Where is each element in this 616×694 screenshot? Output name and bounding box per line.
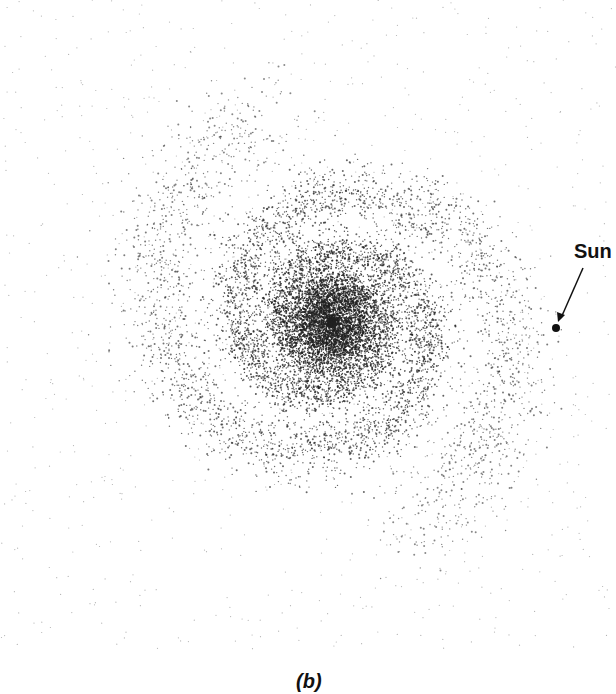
sun-label: Sun (574, 240, 612, 263)
figure-caption: (b) (296, 670, 322, 693)
arrowhead-icon (557, 312, 565, 322)
star-dots (1, 0, 616, 649)
sun-pointer-arrow (561, 268, 583, 318)
spiral-galaxy-illustration (0, 0, 616, 694)
sun-marker (552, 324, 560, 332)
